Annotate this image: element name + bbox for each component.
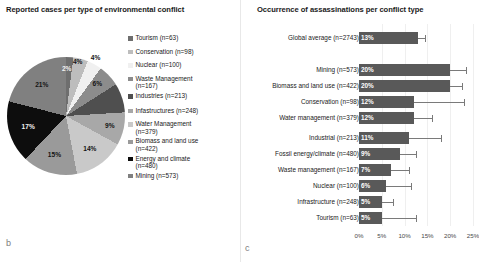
legend-color-swatch (128, 109, 133, 114)
bar-row: Nuclear (n=100)6% (241, 180, 479, 192)
bar-value-label: 13% (361, 32, 374, 44)
pie-legend-item[interactable]: Water Management (n=379) (128, 120, 236, 135)
error-bar-line (414, 102, 464, 103)
pie-legend-label: Water Management (n=379) (136, 120, 192, 135)
error-bar-cap (409, 167, 410, 174)
pie-legend-item[interactable]: Mining (n=573) (128, 172, 236, 180)
error-bar-cap (464, 99, 465, 106)
bar-category-label: Biomass and land use (n=422) (272, 80, 359, 92)
pie-slice-label: 17% (22, 123, 35, 130)
bar-row: Industrial (n=213)11% (241, 132, 479, 144)
pie-legend-label: Waste Management (n=167) (136, 75, 193, 90)
error-bar-line (418, 38, 425, 39)
x-axis-tick: 5% (377, 232, 386, 239)
error-bar-cap (432, 115, 433, 122)
pie-legend-label: Industries (n=213) (136, 92, 188, 100)
figure-label-b: b (6, 238, 11, 248)
x-axis-tick-labels: 0%5%10%15%20%25% (241, 232, 479, 246)
bar-row: Global average (n=2743)13% (241, 32, 479, 44)
bar-category-label: Nuclear (n=100) (313, 180, 359, 192)
bar-category-label: Global average (n=2743) (288, 32, 359, 44)
bar-value-label: 11% (361, 132, 373, 144)
error-bar-line (450, 86, 461, 87)
panel-bar-chart: Occurrence of assassinations per conflic… (240, 0, 479, 262)
pie-slice-label: 15% (48, 151, 61, 158)
error-bar-cap (393, 199, 394, 206)
pie-legend-label: Mining (n=573) (136, 172, 179, 180)
pie-legend-item[interactable]: Energy and climate (n=480) (128, 155, 236, 170)
error-bar-cap (441, 135, 442, 142)
bar-category-label: Industrial (n=213) (309, 132, 359, 144)
pie-slice-label: 4% (73, 58, 83, 65)
pie-chart-area: 2%4%4%6%9%14%15%17%21% (5, 30, 125, 235)
bar-value-label: 7% (361, 164, 370, 176)
pie-legend-item[interactable]: Industries (n=213) (128, 92, 236, 100)
legend-color-swatch (128, 174, 133, 179)
legend-color-swatch (128, 63, 133, 68)
bar-row: Biomass and land use (n=422)20% (241, 80, 479, 92)
error-bar-line (409, 138, 441, 139)
panel-b-title: Reported cases per type of environmental… (6, 5, 184, 14)
legend-color-swatch (128, 157, 133, 162)
error-bar-cap (416, 215, 417, 222)
pie-slice-label: 4% (91, 54, 101, 61)
error-bar-line (450, 70, 466, 71)
error-bar-cap (466, 67, 467, 74)
legend-color-swatch (128, 50, 133, 55)
pie-slice-label: 14% (83, 145, 96, 152)
bar-row: Water management (n=379)12% (241, 112, 479, 124)
panel-pie-chart: Reported cases per type of environmental… (0, 0, 240, 262)
pie-legend-label: Infastructures (n=248) (136, 107, 199, 115)
bar-chart-area: Global average (n=2743)13%Mining (n=573)… (241, 0, 479, 262)
bar-row: Tourism (n=63)5% (241, 212, 479, 224)
bar-value-label: 6% (361, 180, 370, 192)
pie-slice-label: 6% (93, 80, 103, 87)
error-bar-line (391, 170, 409, 171)
bar-value-label: 5% (361, 196, 370, 208)
bar-value-label: 5% (361, 212, 370, 224)
pie-legend-item[interactable]: Infastructures (n=248) (128, 107, 236, 115)
bar-category-label: Waste management (n=167) (278, 164, 359, 176)
x-axis-tick: 15% (421, 232, 433, 239)
error-bar-line (382, 218, 416, 219)
pie-legend-item[interactable]: Nuclear (n=100) (128, 61, 236, 69)
x-axis-tick: 0% (355, 232, 364, 239)
pie-legend-item[interactable]: Biomass and land use (n=422) (128, 137, 236, 152)
pie-legend-label: Energy and climate (n=480) (136, 155, 191, 170)
legend-color-swatch (128, 140, 133, 145)
bar-value-label: 12% (361, 96, 374, 108)
bar-category-label: Fossil energy/climate (n=480) (275, 148, 359, 160)
bar-value-label: 9% (361, 148, 370, 160)
pie-legend-item[interactable]: Tourism (n=63) (128, 34, 236, 42)
pie-legend-item[interactable]: Conservation (n=98) (128, 48, 236, 56)
bar-row: Mining (n=573)20% (241, 64, 479, 76)
bar-row: Fossil energy/climate (n=480)9% (241, 148, 479, 160)
bar-value-label: 20% (361, 80, 374, 92)
error-bar-cap (425, 35, 426, 42)
pie-slice-label: 2% (62, 65, 72, 72)
bar-category-label: Tourism (n=63) (316, 212, 359, 224)
error-bar-line (382, 202, 393, 203)
bar-row: Conservation (n=98)12% (241, 96, 479, 108)
pie-legend: Tourism (n=63)Conservation (n=98)Nuclear… (128, 34, 236, 181)
pie-legend-item[interactable]: Waste Management (n=167) (128, 75, 236, 90)
bar-row: Waste management (n=167)7% (241, 164, 479, 176)
legend-color-swatch (128, 122, 133, 127)
bar-value-label: 12% (361, 112, 374, 124)
pie-legend-label: Conservation (n=98) (136, 48, 194, 56)
pie-legend-label: Nuclear (n=100) (136, 61, 182, 69)
error-bar-cap (416, 151, 417, 158)
pie-slice-label: 9% (105, 122, 115, 129)
error-bar-line (400, 154, 416, 155)
pie-chart-graphic (7, 57, 125, 175)
error-bar-line (386, 186, 411, 187)
legend-color-swatch (128, 77, 133, 82)
pie-legend-label: Tourism (n=63) (136, 34, 179, 42)
bar-category-label: Infrastructure (n=248) (297, 196, 359, 208)
bar-category-label: Mining (n=573) (316, 64, 359, 76)
bar-value-label: 20% (361, 64, 374, 76)
bar-category-label: Conservation (n=98) (301, 96, 359, 108)
x-axis-tick: 20% (444, 232, 456, 239)
error-bar-cap (411, 183, 412, 190)
error-bar-cap (462, 83, 463, 90)
